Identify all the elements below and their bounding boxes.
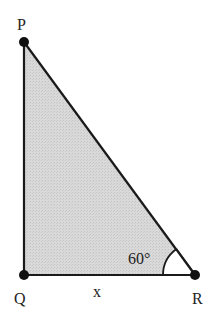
vertex-point-p bbox=[19, 37, 29, 47]
vertex-point-r bbox=[190, 270, 200, 280]
vertex-point-q bbox=[19, 270, 29, 280]
side-label-qr: x bbox=[93, 283, 101, 300]
vertex-label-p: P bbox=[17, 16, 26, 33]
vertex-label-q: Q bbox=[14, 290, 26, 307]
triangle-diagram: P Q R x 60° bbox=[0, 0, 213, 315]
vertex-label-r: R bbox=[192, 290, 203, 307]
angle-label-r: 60° bbox=[128, 250, 150, 267]
